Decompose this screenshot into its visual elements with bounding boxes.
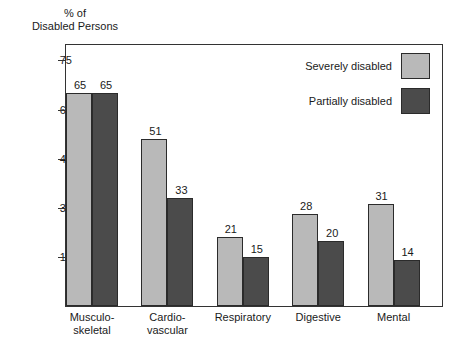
legend-label-severely-disabled: Severely disabled — [305, 60, 392, 73]
bar: 20 — [318, 241, 344, 307]
bar-group: 6565 — [66, 44, 118, 306]
chart-legend: Severely disabled Partially disabled — [262, 53, 430, 123]
bar-value-label: 33 — [164, 184, 198, 196]
y-axis-tick-mark — [58, 60, 66, 61]
bar: 14 — [394, 260, 420, 306]
y-axis-title: % of Disabled Persons — [0, 7, 150, 33]
bar-value-label: 14 — [391, 246, 425, 258]
bar-value-label: 21 — [214, 223, 248, 235]
bar-value-label: 65 — [89, 79, 123, 91]
bar: 65 — [92, 93, 118, 306]
x-axis-label: Mental — [346, 311, 442, 324]
bar: 65 — [66, 93, 92, 306]
legend-swatch-partially-disabled — [401, 88, 430, 114]
bar-value-label: 31 — [365, 190, 399, 202]
legend-label-partially-disabled: Partially disabled — [309, 95, 392, 108]
bar: 51 — [141, 139, 167, 306]
bar-value-label: 51 — [138, 125, 172, 137]
legend-item-severely-disabled: Severely disabled — [262, 53, 430, 83]
y-axis-tick-mark — [58, 208, 66, 209]
legend-swatch-severely-disabled — [401, 53, 430, 79]
y-axis-tick-mark — [58, 159, 66, 160]
bar-value-label: 20 — [315, 227, 349, 239]
bar-group: 5133 — [141, 44, 193, 306]
legend-item-partially-disabled: Partially disabled — [262, 88, 430, 118]
bar-chart: % of Disabled Persons 1530456075 6565513… — [0, 0, 468, 358]
bar: 33 — [167, 198, 193, 306]
y-axis-tick-mark — [58, 257, 66, 258]
bar: 15 — [243, 257, 269, 306]
y-axis-tick-mark — [58, 110, 66, 111]
bar-group: 2115 — [217, 44, 269, 306]
bar-value-label: 28 — [289, 200, 323, 212]
bar-value-label: 15 — [240, 243, 274, 255]
